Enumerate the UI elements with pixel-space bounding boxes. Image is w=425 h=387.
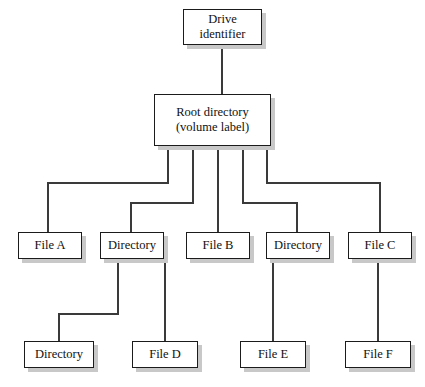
node-label: Directory (104, 238, 160, 253)
edge-root-file-c (267, 146, 380, 232)
directory-structure-diagram: Drive identifier Root directory (volume … (0, 0, 425, 387)
node-directory-2: Directory (266, 232, 330, 259)
node-label: File C (361, 238, 400, 253)
node-directory-3: Directory (24, 341, 94, 368)
node-label: Directory (270, 238, 326, 253)
node-label: File D (145, 347, 185, 362)
node-label: Drive identifier (196, 12, 250, 42)
node-file-e: File E (240, 341, 306, 368)
node-file-d: File D (132, 341, 198, 368)
edge-dir-1-dir-3 (59, 259, 118, 341)
node-label: Directory (31, 347, 87, 362)
node-label: File F (359, 347, 397, 362)
node-directory-1: Directory (100, 232, 164, 259)
node-label: Root directory (volume label) (172, 105, 253, 135)
node-drive-identifier: Drive identifier (183, 9, 262, 45)
node-file-f: File F (345, 341, 411, 368)
node-label: File A (31, 238, 70, 253)
node-root-directory: Root directory (volume label) (154, 94, 271, 146)
node-label: File B (199, 238, 238, 253)
edge-root-dir-2 (243, 146, 297, 232)
node-file-c: File C (348, 232, 412, 259)
node-file-b: File B (186, 232, 250, 259)
edge-root-file-a (48, 146, 168, 232)
connector-layer (0, 0, 425, 387)
node-file-a: File A (18, 232, 82, 259)
node-label: File E (254, 347, 292, 362)
edge-root-dir-1 (131, 146, 193, 232)
